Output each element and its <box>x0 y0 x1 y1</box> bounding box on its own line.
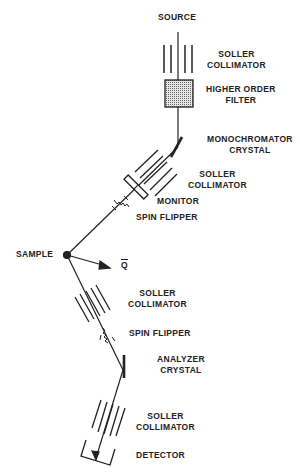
soller-collimator-3-icon <box>75 285 110 322</box>
label-monochromator-crystal: MONOCHROMATOR CRYSTAL <box>207 134 293 156</box>
label-line: CRYSTAL <box>207 145 293 156</box>
label-line: COLLIMATOR <box>207 60 266 71</box>
label-line: COLLIMATOR <box>188 180 247 191</box>
label-line: SOLLER <box>207 49 266 60</box>
label-spin-flipper-2: SPIN FLIPPER <box>129 328 191 339</box>
label-line: MONOCHROMATOR <box>207 134 293 145</box>
label-soller-collimator-2: SOLLER COLLIMATOR <box>188 169 247 191</box>
label-analyzer-crystal: ANALYZER CRYSTAL <box>157 354 205 376</box>
label-source: SOURCE <box>158 12 196 23</box>
label-line: SOLLER <box>128 288 187 299</box>
label-line: COLLIMATOR <box>128 299 187 310</box>
detector-arrowhead-icon <box>92 451 99 460</box>
label-line: HIGHER ORDER <box>206 84 276 95</box>
arrowhead-icon <box>99 261 110 269</box>
scattered-beam <box>67 255 123 370</box>
label-line: SOLLER <box>188 169 247 180</box>
label-soller-collimator-3: SOLLER COLLIMATOR <box>128 288 187 310</box>
higher-order-filter-icon <box>165 80 193 107</box>
label-line: COLLIMATOR <box>136 422 195 433</box>
soller-collimator-4-icon <box>92 400 125 436</box>
label-higher-order-filter: HIGHER ORDER FILTER <box>206 84 276 106</box>
label-sample: SAMPLE <box>16 249 53 260</box>
label-soller-collimator-1: SOLLER COLLIMATOR <box>207 49 266 71</box>
monochromator-crystal-icon <box>171 137 182 157</box>
label-soller-collimator-4: SOLLER COLLIMATOR <box>136 411 195 433</box>
spectrometer-diagram <box>0 0 300 474</box>
label-line: CRYSTAL <box>157 365 205 376</box>
spin-flipper-2-icon <box>100 328 115 343</box>
label-line: ANALYZER <box>157 354 205 365</box>
label-detector: DETECTOR <box>136 450 185 461</box>
label-q-vector: Q <box>121 260 128 271</box>
label-spin-flipper-1: SPIN FLIPPER <box>136 212 198 223</box>
label-monitor: MONITOR <box>157 196 199 207</box>
label-line: SOLLER <box>136 411 195 422</box>
label-line: FILTER <box>206 95 276 106</box>
